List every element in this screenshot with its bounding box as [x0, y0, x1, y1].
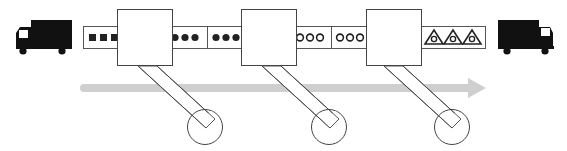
station-2-arm [262, 66, 347, 145]
output-truck-icon [498, 20, 554, 55]
raw-material-items [89, 34, 118, 41]
finished-product-items [425, 30, 481, 44]
station-1-arm [138, 66, 223, 145]
station-3-arm [384, 66, 470, 145]
production-line-diagram [0, 0, 567, 151]
station-2-box [242, 10, 297, 66]
input-truck-icon [16, 20, 72, 55]
station-3-box [367, 10, 422, 66]
station-1-box [118, 10, 173, 66]
diagram-canvas [0, 0, 567, 151]
